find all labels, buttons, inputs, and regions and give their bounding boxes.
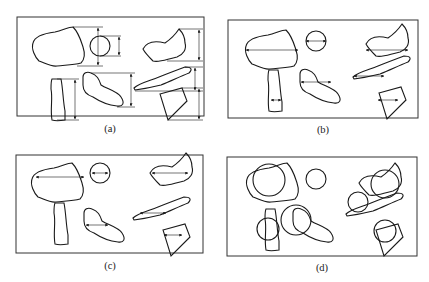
particle-irregular-3 <box>150 153 193 186</box>
particle-circle <box>306 169 326 189</box>
panel-a-border <box>17 17 204 116</box>
particle-irregular-3 <box>366 24 409 57</box>
panel-d <box>227 157 417 256</box>
particle-polygon <box>163 224 190 256</box>
particle-irregular-3 <box>143 29 186 62</box>
caption-d: (d) <box>316 262 329 274</box>
particle-elongated <box>268 70 282 112</box>
particle-elongated <box>54 203 68 245</box>
panel-b <box>228 20 418 119</box>
particle-polygon <box>379 87 406 119</box>
particle-boot <box>83 72 123 106</box>
particle-irregular-1 <box>246 163 298 202</box>
particle-irregular-1 <box>245 30 297 69</box>
particle-polygon <box>376 224 403 256</box>
particle-boot <box>300 69 340 103</box>
caption-a: (a) <box>104 123 116 135</box>
panel-a <box>17 17 204 121</box>
particle-needle <box>346 193 403 216</box>
particle-needle <box>353 56 410 79</box>
particle-boot <box>293 208 333 242</box>
particle-irregular-1 <box>31 163 83 202</box>
particle-elongated <box>265 209 279 251</box>
particle-circle <box>90 36 110 56</box>
particle-elongated <box>51 79 65 121</box>
panel-c <box>16 153 203 256</box>
particle-needle <box>134 67 191 90</box>
feret-measurements <box>57 27 203 120</box>
particle-irregular-1 <box>32 27 84 66</box>
particle-irregular-3 <box>359 163 402 196</box>
particle-diameter-figure: (a) (b) (c) (d) <box>0 0 429 282</box>
caption-b: (b) <box>317 124 330 136</box>
caption-c: (c) <box>104 260 116 272</box>
particle-polygon <box>160 88 187 120</box>
particle-needle <box>133 197 190 220</box>
panel-b-border <box>228 20 418 118</box>
